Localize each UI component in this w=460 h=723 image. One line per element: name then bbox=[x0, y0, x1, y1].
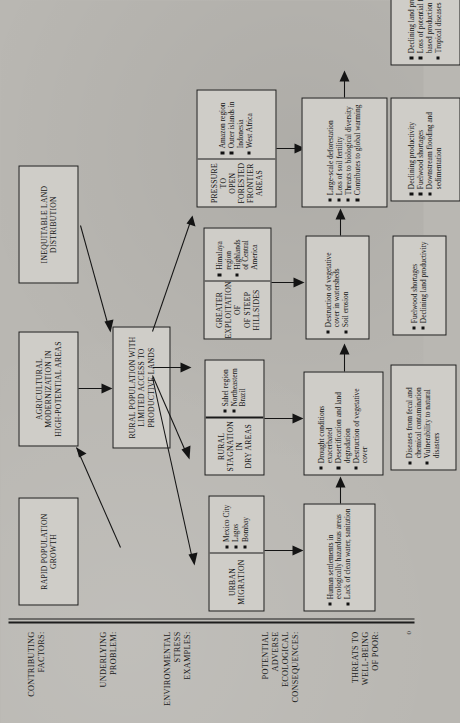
box-bullet-list: Large-scale deforestation Loss of soil f… bbox=[302, 98, 386, 206]
bullet-square-icon bbox=[234, 545, 237, 548]
box-urban-migration[interactable]: URBANMIGRATION Mexico City Lagos Bombay bbox=[208, 495, 264, 611]
list-item: Desertification and land degradation bbox=[334, 376, 351, 469]
list-item: Highlands of Central America bbox=[233, 231, 259, 276]
list-item: Destruction of vegetative cover in water… bbox=[324, 240, 341, 333]
list-item: Outer islands in Indonesia bbox=[227, 93, 244, 154]
bullet-square-icon bbox=[409, 192, 412, 195]
bullet-square-icon bbox=[223, 409, 226, 412]
bullet-square-icon bbox=[336, 466, 339, 469]
list-item: Contributes to global warming bbox=[353, 102, 362, 201]
box-bullet-list: Mexico City Lagos Bombay bbox=[209, 496, 263, 552]
box-bullet-list: Himalaya region Highlands of Central Ame… bbox=[204, 228, 270, 280]
list-item: Declining land productivity bbox=[407, 0, 416, 59]
list-item: Himalaya region bbox=[215, 231, 232, 276]
box-bullet-list: Declining land productivity Loss of pote… bbox=[391, 0, 459, 64]
row-label-threats-to-well-being-of-poor: THREATS TOWELL-BEINGOF POOR: bbox=[350, 631, 380, 717]
list-item: Bombay bbox=[241, 499, 250, 548]
arrow-dry-area-consequences-to-dry-area-threats bbox=[334, 337, 356, 373]
bullet-square-icon bbox=[425, 461, 428, 464]
box-header: AGRICULTURALMODERNIZATION INHIGH-POTENTI… bbox=[19, 332, 77, 445]
list-item: Amazon region bbox=[218, 93, 227, 154]
bullet-square-icon bbox=[428, 192, 431, 195]
box-dry-area-threats[interactable]: Fuelwood shortages Declining land produc… bbox=[392, 235, 446, 335]
box-header: RAPID POPULATIONGROWTH bbox=[19, 498, 77, 604]
box-urban-threats[interactable]: Diseases from fecal and chemical contami… bbox=[390, 364, 456, 470]
bullet-square-icon bbox=[346, 602, 349, 605]
box-header: RURALSTAGNATION INDRY AREAS bbox=[205, 418, 263, 474]
list-item: Declining productivity bbox=[407, 102, 416, 195]
list-item: Large-scale deforestation bbox=[326, 102, 335, 201]
list-item: Fuelwood shortages bbox=[416, 102, 425, 195]
arrow-urban-consequences-to-urban-threats bbox=[330, 471, 352, 505]
row-label-environmental-stress-examples: ENVIRONMENTALSTRESSEXAMPLES: bbox=[162, 631, 192, 717]
bullet-square-icon bbox=[418, 56, 421, 59]
bullet-square-icon bbox=[235, 273, 238, 276]
box-rapid-population-growth[interactable]: RAPID POPULATIONGROWTH bbox=[18, 497, 78, 605]
bullet-square-icon bbox=[247, 151, 250, 154]
list-item: Northeastern Brazil bbox=[230, 363, 247, 412]
bullet-square-icon bbox=[319, 466, 322, 469]
box-bullet-list: Human settlements in ecologically hazard… bbox=[304, 504, 374, 610]
box-inequitable-land-distribution[interactable]: INEQUITABLE LANDDISTRIBUTION bbox=[18, 165, 78, 283]
list-item: Drought conditions exacerbated bbox=[317, 376, 334, 469]
arrow-inequitable-land-to-rural-population bbox=[70, 193, 130, 373]
box-greater-exploitation-hillsides[interactable]: GREATEREXPLOITATION OFOF STEEPHILLSIDES … bbox=[203, 227, 271, 339]
bullet-square-icon bbox=[408, 461, 411, 464]
box-bullet-list: Fuelwood shortages Declining land produc… bbox=[393, 236, 445, 334]
list-item: Destruction of vegetative cover bbox=[352, 376, 369, 469]
bullet-square-icon bbox=[418, 192, 421, 195]
header-rule-top bbox=[8, 621, 414, 623]
list-item: Threats to biological diversity bbox=[344, 102, 353, 201]
box-agricultural-modernization[interactable]: AGRICULTURALMODERNIZATION INHIGH-POTENTI… bbox=[18, 331, 78, 446]
box-header: URBANMIGRATION bbox=[209, 553, 263, 610]
box-bullet-list: Declining productivity Fuelwood shortage… bbox=[391, 98, 459, 200]
box-rural-stagnation-dry-areas[interactable]: RURALSTAGNATION INDRY AREAS Sahel region… bbox=[204, 359, 264, 475]
list-item: Downstream flooding and sedimentation bbox=[425, 102, 442, 195]
bullet-square-icon bbox=[436, 56, 439, 59]
box-urban-consequences[interactable]: Human settlements in ecologically hazard… bbox=[303, 503, 375, 611]
bullet-square-icon bbox=[326, 330, 329, 333]
box-pressure-open-forested-frontier[interactable]: PRESSURE TOOPEN FORESTEDFRONTIER AREAS A… bbox=[196, 89, 276, 207]
list-item: Loss of potential forest-based productio… bbox=[416, 0, 433, 59]
arrow-hillside-consequences-to-hillside-threats bbox=[330, 203, 352, 237]
box-hillside-threats[interactable]: Declining productivity Fuelwood shortage… bbox=[390, 97, 460, 201]
bullet-square-icon bbox=[220, 151, 223, 154]
box-header: GREATEREXPLOITATION OFOF STEEPHILLSIDES bbox=[204, 281, 270, 338]
arrow-rural-population-to-urban-migration bbox=[150, 363, 212, 603]
header-rule-top-2 bbox=[8, 618, 414, 619]
list-item: Mexico City bbox=[222, 499, 231, 548]
list-item: Loss of soil fertility bbox=[335, 102, 344, 201]
bullet-square-icon bbox=[217, 273, 220, 276]
box-forested-threats[interactable]: Declining land productivity Loss of pote… bbox=[390, 0, 460, 65]
list-item: Human settlements in ecologically hazard… bbox=[326, 508, 343, 605]
box-bullet-list: Diseases from fecal and chemical contami… bbox=[391, 365, 455, 469]
bullet-square-icon bbox=[344, 330, 347, 333]
box-dry-area-consequences[interactable]: Drought conditions exacerbated Desertifi… bbox=[303, 371, 383, 475]
bullet-square-icon bbox=[328, 198, 331, 201]
row-label-underlying-problem: UNDERLYINGPROBLEM: bbox=[98, 631, 118, 717]
bullet-square-icon bbox=[229, 151, 232, 154]
bullet-square-icon bbox=[225, 545, 228, 548]
list-item: Sahel region bbox=[221, 363, 230, 412]
box-bullet-list: Drought conditions exacerbated Desertifi… bbox=[304, 372, 382, 474]
bullet-square-icon bbox=[412, 326, 415, 329]
bullet-square-icon bbox=[355, 198, 358, 201]
bullet-square-icon bbox=[421, 326, 424, 329]
bullet-square-icon bbox=[337, 198, 340, 201]
bullet-square-icon bbox=[354, 466, 357, 469]
bullet-square-icon bbox=[243, 545, 246, 548]
page-mark: 0 bbox=[404, 631, 412, 635]
list-item: Lagos bbox=[231, 499, 240, 548]
list-item: West Africa bbox=[245, 93, 254, 154]
box-forested-consequences[interactable]: Large-scale deforestation Loss of soil f… bbox=[301, 97, 387, 207]
box-bullet-list: Amazon region Outer islands in Indonesia… bbox=[197, 90, 275, 158]
list-item: Diseases from fecal and chemical contami… bbox=[405, 369, 422, 464]
box-header: PRESSURE TOOPEN FORESTEDFRONTIER AREAS bbox=[197, 159, 275, 206]
box-header: INEQUITABLE LANDDISTRIBUTION bbox=[19, 166, 77, 282]
list-item: Tropical diseases bbox=[434, 0, 443, 59]
list-item: Fuelwood shortages bbox=[410, 240, 419, 329]
box-hillside-consequences[interactable]: Destruction of vegetative cover in water… bbox=[305, 235, 369, 339]
list-item: Vulnerability to natural disasters bbox=[423, 369, 440, 464]
row-label-potential-adverse-ecological-consequences: POTENTIALADVERSEECOLOGICALCONSEQUENCES: bbox=[260, 631, 300, 717]
bullet-square-icon bbox=[232, 409, 235, 412]
